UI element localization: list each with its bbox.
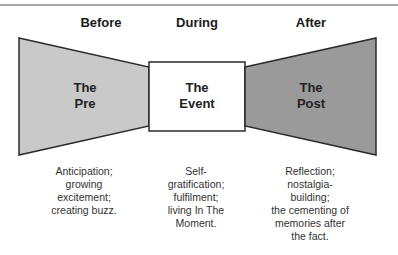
description-line: memories after	[250, 217, 370, 230]
event-description: Self-gratification;fulfilment;living In …	[136, 165, 256, 230]
event-label: The Event	[152, 80, 242, 112]
description-line: excitement;	[24, 191, 144, 204]
description-line: growing	[24, 178, 144, 191]
event-label-line2: Event	[152, 96, 242, 112]
post-label-line1: The	[266, 80, 356, 96]
description-line: Reflection;	[250, 165, 370, 178]
post-label-line2: Post	[266, 96, 356, 112]
description-line: building;	[250, 191, 370, 204]
description-line: gratification;	[136, 178, 256, 191]
pre-label-line1: The	[40, 80, 130, 96]
description-line: nostalgia-	[250, 178, 370, 191]
pre-label-line2: Pre	[40, 96, 130, 112]
description-line: fulfilment;	[136, 191, 256, 204]
description-line: Self-	[136, 165, 256, 178]
description-line: Anticipation;	[24, 165, 144, 178]
description-line: living In The	[136, 204, 256, 217]
description-line: creating buzz.	[24, 204, 144, 217]
description-line: the fact.	[250, 230, 370, 243]
description-line: Moment.	[136, 217, 256, 230]
event-label-line1: The	[152, 80, 242, 96]
post-description: Reflection;nostalgia-building;the cement…	[250, 165, 370, 243]
pre-label: The Pre	[40, 80, 130, 112]
post-label: The Post	[266, 80, 356, 112]
pre-description: Anticipation;growingexcitement;creating …	[24, 165, 144, 217]
description-line: the cementing of	[250, 204, 370, 217]
